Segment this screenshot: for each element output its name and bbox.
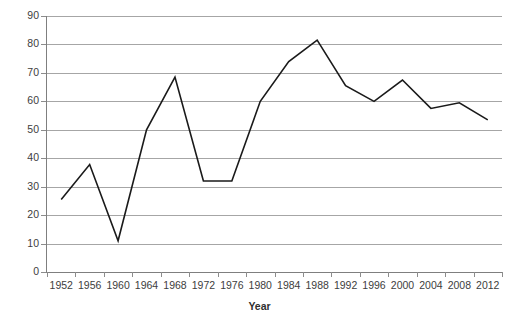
x-tick-label-1964: 1964 — [135, 279, 158, 291]
y-tick-60 — [41, 101, 46, 102]
line-chart: 0102030405060708090 19521956196019641968… — [0, 0, 519, 324]
x-tick-label-1968: 1968 — [163, 279, 186, 291]
x-tick-2000 — [388, 272, 389, 277]
x-tick-label-2008: 2008 — [448, 279, 471, 291]
x-tick-1980 — [246, 272, 247, 277]
x-tick-label-2000: 2000 — [391, 279, 414, 291]
x-tick-label-1992: 1992 — [334, 279, 357, 291]
x-tick-1992 — [331, 272, 332, 277]
y-tick-label-50: 50 — [5, 124, 39, 135]
x-tick-label-1988: 1988 — [305, 279, 328, 291]
x-tick-1952 — [47, 272, 48, 277]
y-tick-label-40: 40 — [5, 152, 39, 163]
y-tick-30 — [41, 187, 46, 188]
series-line — [61, 40, 488, 241]
y-tick-70 — [41, 73, 46, 74]
x-tick-1956 — [75, 272, 76, 277]
x-tick-1964 — [132, 272, 133, 277]
plot-area — [47, 16, 502, 272]
x-tick-label-1956: 1956 — [78, 279, 101, 291]
y-tick-0 — [41, 272, 46, 273]
x-axis-title: Year — [0, 300, 519, 312]
x-tick-1968 — [161, 272, 162, 277]
x-tick-label-1976: 1976 — [220, 279, 243, 291]
y-axis-line — [46, 16, 47, 273]
x-tick-label-1996: 1996 — [362, 279, 385, 291]
x-tick-1996 — [360, 272, 361, 277]
y-tick-90 — [41, 16, 46, 17]
y-tick-label-90: 90 — [5, 10, 39, 21]
series-line-layer — [47, 16, 502, 272]
y-tick-40 — [41, 158, 46, 159]
y-tick-80 — [41, 44, 46, 45]
y-tick-label-0: 0 — [5, 266, 39, 277]
y-tick-20 — [41, 215, 46, 216]
x-tick-label-1952: 1952 — [50, 279, 73, 291]
x-tick-label-1972: 1972 — [192, 279, 215, 291]
x-tick-1976 — [218, 272, 219, 277]
x-tick-label-2012: 2012 — [476, 279, 499, 291]
x-tick-2004 — [417, 272, 418, 277]
x-tick-label-1960: 1960 — [106, 279, 129, 291]
y-tick-label-70: 70 — [5, 67, 39, 78]
x-tick-1972 — [189, 272, 190, 277]
y-axis-tick-labels: 0102030405060708090 — [0, 0, 39, 324]
x-tick-label-1980: 1980 — [249, 279, 272, 291]
x-axis-line — [46, 272, 502, 273]
y-tick-10 — [41, 244, 46, 245]
y-tick-label-60: 60 — [5, 95, 39, 106]
x-tick-label-2004: 2004 — [419, 279, 442, 291]
y-tick-label-10: 10 — [5, 238, 39, 249]
x-axis-tick-labels: 1952195619601964196819721976198019841988… — [0, 279, 519, 295]
x-tick-end — [502, 272, 503, 277]
y-tick-50 — [41, 130, 46, 131]
x-tick-label-1984: 1984 — [277, 279, 300, 291]
y-tick-label-80: 80 — [5, 38, 39, 49]
x-tick-1984 — [275, 272, 276, 277]
x-tick-2012 — [474, 272, 475, 277]
y-tick-label-20: 20 — [5, 209, 39, 220]
y-tick-label-30: 30 — [5, 181, 39, 192]
x-tick-1988 — [303, 272, 304, 277]
x-tick-2008 — [445, 272, 446, 277]
x-tick-1960 — [104, 272, 105, 277]
